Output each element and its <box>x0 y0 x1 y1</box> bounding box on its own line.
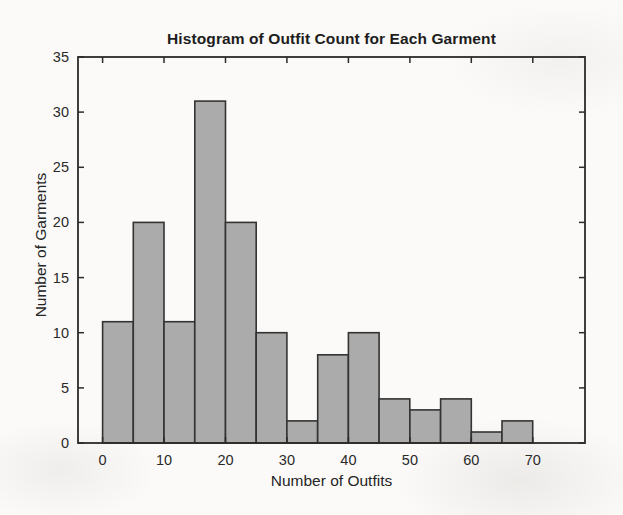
histogram-bar <box>287 421 318 443</box>
y-tick-label: 5 <box>61 380 69 396</box>
histogram-bar <box>103 322 134 443</box>
y-tick-label: 25 <box>53 159 69 175</box>
histogram-bar <box>502 421 533 443</box>
y-tick-label: 35 <box>53 49 69 65</box>
y-tick-label: 20 <box>53 214 69 230</box>
x-tick-label: 10 <box>156 452 172 468</box>
y-tick-label: 30 <box>53 104 69 120</box>
x-tick-label: 20 <box>217 452 233 468</box>
x-tick-label: 70 <box>525 452 541 468</box>
y-tick-label: 0 <box>61 435 69 451</box>
x-tick-label: 50 <box>402 452 418 468</box>
x-tick-label: 0 <box>99 452 107 468</box>
scanned-page: Histogram of Outfit Count for Each Garme… <box>0 0 623 515</box>
histogram-bar <box>164 322 195 443</box>
x-axis-label: Number of Outfits <box>78 472 585 490</box>
histogram-bar <box>471 432 502 443</box>
histogram-bar <box>410 410 441 443</box>
histogram-bar <box>441 399 472 443</box>
plot-area: 01020304050607005101520253035 <box>0 0 623 515</box>
histogram-bar <box>226 222 257 443</box>
x-tick-label: 30 <box>279 452 295 468</box>
histogram-bar <box>379 399 410 443</box>
x-tick-label: 60 <box>463 452 479 468</box>
y-tick-label: 15 <box>53 270 69 286</box>
histogram-figure: Histogram of Outfit Count for Each Garme… <box>0 0 623 515</box>
histogram-bar <box>318 355 349 443</box>
histogram-bar <box>256 333 287 443</box>
histogram-bar <box>195 101 226 443</box>
y-tick-label: 10 <box>53 325 69 341</box>
histogram-bar <box>348 333 379 443</box>
histogram-bar <box>133 222 164 443</box>
x-tick-label: 40 <box>340 452 356 468</box>
